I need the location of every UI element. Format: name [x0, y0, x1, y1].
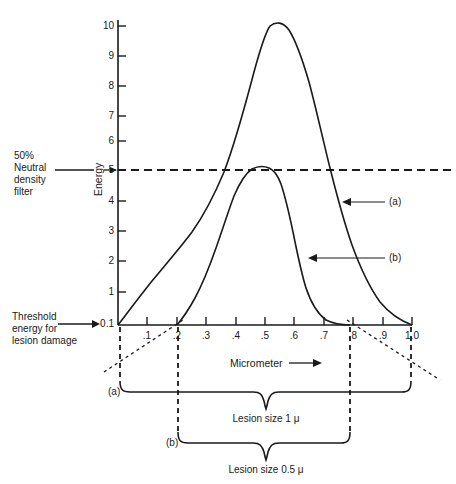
callout-arrow-a	[342, 198, 385, 206]
x-tick-label-09: .9	[370, 330, 396, 341]
curve-b-callout-label: (b)	[389, 252, 401, 263]
y-tick-label-4: 4	[92, 195, 114, 206]
x-tick-label-01: .1	[134, 330, 160, 341]
x-tick-label-02: .2	[164, 330, 190, 341]
brace-a-label: (a)	[108, 386, 120, 397]
brace-b-caption: Lesion size 0.5 μ	[196, 464, 336, 475]
y-tick-label-5: 5	[92, 164, 114, 175]
x-tick-label-06: .6	[281, 330, 307, 341]
dotted-diagonal-left	[104, 320, 183, 372]
micrometer-arrow	[289, 359, 322, 367]
x-tick-label-08: .8	[340, 330, 366, 341]
brace-a-caption: Lesion size 1 μ	[196, 413, 336, 424]
brace-b	[178, 432, 350, 460]
threshold-energy-note: Threshold energy for lesion damage	[12, 311, 96, 347]
y-tick-label-8: 8	[92, 80, 114, 91]
y-tick-label-9: 9	[92, 50, 114, 61]
y-tick-label-7: 7	[92, 110, 114, 121]
figure-canvas: Energy 10 9 8 7 6 5 4 3 2 1 0.1 .1 .2 .3…	[0, 0, 456, 484]
dotted-diagonal-right	[347, 320, 440, 380]
x-tick-label-03: .3	[193, 330, 219, 341]
y-tick-label-3: 3	[92, 225, 114, 236]
y-tick-label-2: 2	[92, 255, 114, 266]
curve-a	[118, 23, 412, 325]
brace-b-label: (b)	[166, 437, 178, 448]
x-tick-marks	[147, 317, 412, 325]
y-tick-label-6: 6	[92, 135, 114, 146]
y-tick-marks	[118, 26, 126, 292]
neutral-density-filter-note: 50% Neutral density filter	[14, 150, 84, 198]
chart-plot-area	[0, 0, 456, 484]
y-tick-label-1: 1	[92, 286, 114, 297]
x-axis-title: Micrometer	[230, 357, 283, 369]
curve-b	[177, 167, 350, 325]
x-tick-label-10: 1.0	[398, 330, 426, 341]
x-tick-label-04: .4	[223, 330, 249, 341]
curve-a-callout-label: (a)	[389, 196, 401, 207]
x-tick-label-05: .5	[252, 330, 278, 341]
y-tick-label-10: 10	[92, 20, 114, 31]
brace-a	[120, 381, 411, 409]
x-tick-label-07: .7	[311, 330, 337, 341]
callout-arrow-b	[308, 254, 385, 262]
